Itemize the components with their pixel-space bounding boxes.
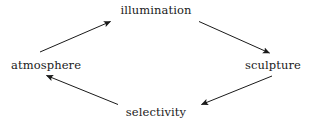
node-label-sculpture: sculpture [245, 58, 301, 72]
edge-illumination-to-sculpture [199, 22, 270, 54]
edge-selectivity-to-atmosphere [47, 76, 119, 105]
cycle-diagram: illumination sculpture selectivity atmos… [0, 0, 312, 127]
node-label-illumination: illumination [0, 3, 312, 17]
edge-sculpture-to-selectivity [202, 76, 273, 105]
node-label-atmosphere: atmosphere [11, 58, 81, 72]
edge-atmosphere-to-illumination [40, 22, 111, 53]
node-label-selectivity: selectivity [0, 105, 312, 119]
